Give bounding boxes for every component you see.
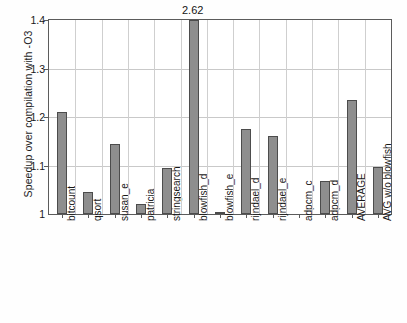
x-gridline — [365, 20, 366, 214]
chart-figure: Speedup over compilation with -O3 11.11.… — [0, 0, 407, 323]
x-gridline — [207, 20, 208, 214]
x-axis-tick — [299, 214, 300, 218]
x-gridline — [338, 20, 339, 214]
x-axis-tick — [194, 214, 195, 218]
x-axis-tick — [115, 214, 116, 218]
x-axis-tick — [167, 214, 168, 218]
x-gridline — [154, 20, 155, 214]
x-axis-tick — [246, 214, 247, 218]
plot-area: 11.11.21.31.4bitcountqsortsusan_epatrici… — [48, 19, 392, 215]
x-gridline — [286, 20, 287, 214]
x-axis-tick — [352, 214, 353, 218]
x-gridline — [312, 20, 313, 214]
x-gridline — [181, 20, 182, 214]
x-axis-tick — [273, 214, 274, 218]
x-axis-tick-label: AVG w/o blowfish — [382, 143, 393, 221]
y-axis-tick-label: 1.3 — [30, 63, 45, 75]
clipped-bar-value-label: 2.62 — [182, 4, 203, 16]
x-axis-tick — [62, 214, 63, 218]
y-gridline — [49, 69, 391, 70]
y-axis-tick-label: 1.1 — [30, 160, 45, 172]
x-axis-tick — [220, 214, 221, 218]
y-gridline — [49, 117, 391, 118]
x-gridline — [259, 20, 260, 214]
y-axis-tick-label: 1 — [39, 208, 45, 220]
x-axis-tick — [141, 214, 142, 218]
y-gridline — [49, 166, 391, 167]
x-gridline — [75, 20, 76, 214]
x-gridline — [233, 20, 234, 214]
x-axis-tick — [88, 214, 89, 218]
x-axis-tick — [325, 214, 326, 218]
y-axis-tick-label: 1.4 — [30, 14, 45, 26]
y-axis-tick-label: 1.2 — [30, 111, 45, 123]
x-gridline — [102, 20, 103, 214]
x-gridline — [128, 20, 129, 214]
x-axis-tick — [378, 214, 379, 218]
